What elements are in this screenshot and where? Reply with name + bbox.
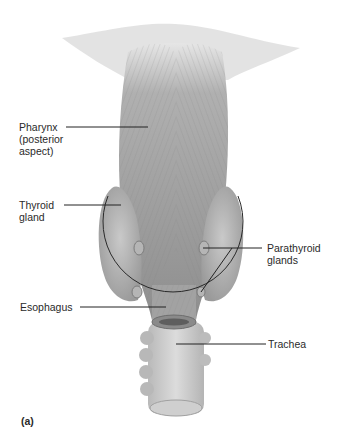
- anatomy-figure: Pharynx (posterior aspect) Thyroid gland…: [0, 0, 343, 431]
- label-pharynx: Pharynx (posterior aspect): [19, 121, 63, 157]
- parathyroid-gland-1: [134, 241, 144, 255]
- label-esophagus: Esophagus: [20, 301, 73, 313]
- trachea-shape: [139, 322, 211, 416]
- panel-label: (a): [21, 415, 34, 427]
- label-thyroid-gland: Thyroid gland: [19, 199, 54, 223]
- label-trachea: Trachea: [268, 338, 306, 350]
- label-parathyroid-glands: Parathyroid glands: [267, 242, 321, 266]
- parathyroid-gland-2: [132, 286, 142, 298]
